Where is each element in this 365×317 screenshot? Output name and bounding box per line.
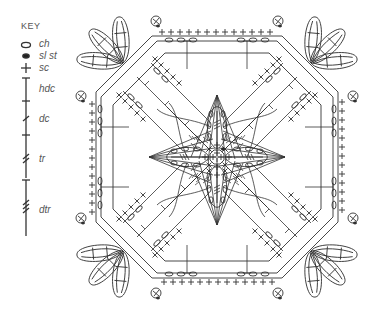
chart-body <box>76 16 358 299</box>
crochet-chart <box>0 0 365 317</box>
